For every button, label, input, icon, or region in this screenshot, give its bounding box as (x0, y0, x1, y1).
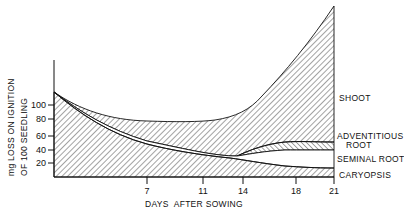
x-tick-14: 14 (238, 186, 248, 196)
y-axis-label: mg LOSS ON IGNITION OF 100 SEEDLING (6, 78, 29, 176)
y-tick-40: 40 (36, 145, 46, 155)
y-tick-60: 60 (36, 131, 46, 141)
y-tick-100: 100 (31, 100, 46, 110)
y-axis-label-line1: mg LOSS ON IGNITION (6, 78, 16, 176)
stacked-area-chart: 100 80 60 40 20 7 11 14 18 21 DAYS AFTER… (0, 0, 404, 210)
y-tick-20: 20 (36, 158, 46, 168)
label-seminal-root: SEMINAL ROOT (337, 154, 404, 164)
x-ticks: 7 11 14 18 21 (144, 177, 339, 196)
y-tick-80: 80 (36, 114, 46, 124)
x-tick-21: 21 (329, 186, 339, 196)
x-tick-18: 18 (291, 186, 301, 196)
x-tick-7: 7 (144, 186, 149, 196)
y-ticks: 100 80 60 40 20 (31, 100, 54, 168)
x-tick-11: 11 (198, 186, 207, 196)
label-adventitious-root-2: ROOT (346, 140, 372, 150)
label-caryopsis: CARYOPSIS (339, 170, 391, 180)
y-axis-label-line2: OF 100 SEEDLING (19, 98, 29, 176)
label-shoot: SHOOT (339, 93, 371, 103)
x-axis-label: DAYS AFTER SOWING (145, 199, 243, 209)
